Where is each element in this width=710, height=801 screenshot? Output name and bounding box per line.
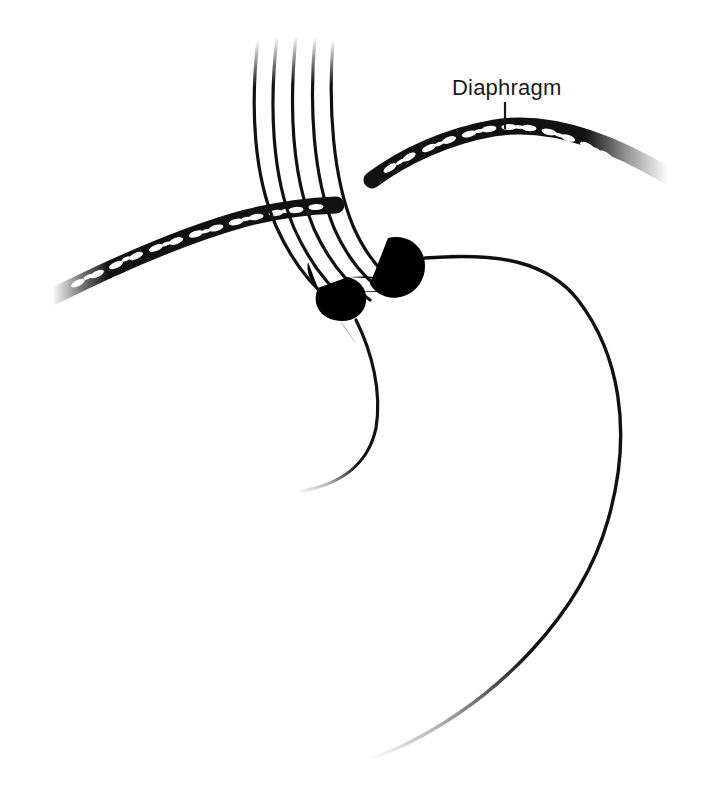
anatomy-illustration-svg: Diaphragm	[0, 0, 710, 801]
diaphragm-label: Diaphragm	[452, 75, 561, 100]
illustration-canvas: Diaphragm	[0, 0, 710, 801]
background	[0, 0, 710, 801]
